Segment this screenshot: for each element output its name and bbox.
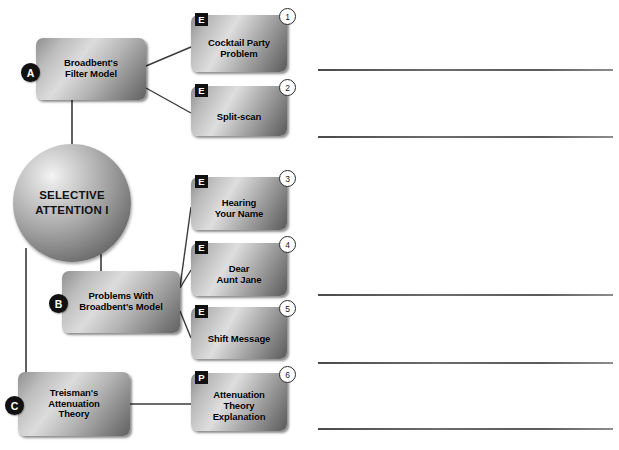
node-c-label-line3: Theory	[58, 408, 89, 419]
node-a-label-line2: Filter Model	[65, 68, 117, 79]
connector-b-to-3	[180, 207, 191, 287]
central-sphere-label: SELECTIVE ATTENTION I	[35, 188, 109, 218]
node-b-label: Problems With Broadbent's Model	[62, 291, 180, 313]
node-1-label-line1: Cocktail Party	[208, 37, 270, 48]
type-badge-e-3: E	[195, 175, 208, 188]
node-3-label: Hearing Your Name	[191, 188, 287, 220]
node-3-label-line2: Your Name	[215, 208, 264, 219]
number-bubble-6: 6	[279, 366, 296, 383]
node-problems-with-broadbents-model[interactable]: Problems With Broadbent's Model	[62, 271, 180, 333]
node-1-label-line2: Problem	[220, 48, 257, 59]
node-c-label: Treisman's Attenuation Theory	[18, 388, 130, 420]
node-treismans-attenuation-theory[interactable]: Treisman's Attenuation Theory	[18, 372, 130, 436]
node-broadbents-filter-model[interactable]: Broadbent's Filter Model	[36, 38, 146, 100]
number-bubble-1: 1	[279, 8, 296, 25]
central-sphere-label-line2: ATTENTION I	[35, 204, 109, 216]
node-c-label-line1: Treisman's	[50, 387, 98, 398]
node-a-label: Broadbent's Filter Model	[36, 58, 146, 80]
node-2-label-line1: Split-scan	[217, 111, 261, 122]
number-bubble-4: 4	[279, 236, 296, 253]
connector-a-to-2	[146, 88, 191, 113]
node-6-label-line3: Explanation	[213, 411, 266, 422]
node-5-label: Shift Message	[191, 322, 287, 345]
node-1-label: Cocktail Party Problem	[191, 28, 287, 60]
central-sphere-label-line1: SELECTIVE	[39, 189, 105, 201]
number-bubble-3: 3	[279, 170, 296, 187]
type-badge-e-2: E	[195, 84, 208, 97]
type-badge-e-4: E	[195, 241, 208, 254]
note-line-1[interactable]	[318, 69, 613, 71]
note-line-2[interactable]	[318, 136, 613, 138]
type-badge-e-1: E	[195, 13, 208, 26]
type-badge-p-6: P	[195, 371, 208, 384]
node-4-label-line1: Dear	[229, 263, 250, 274]
node-3-label-line1: Hearing	[222, 197, 257, 208]
note-line-5[interactable]	[318, 428, 613, 430]
node-5-label-line1: Shift Message	[208, 333, 271, 344]
note-line-3[interactable]	[318, 294, 613, 296]
node-6-label-line2: Theory	[223, 400, 254, 411]
note-line-4[interactable]	[318, 362, 613, 364]
letter-badge-c[interactable]: C	[5, 396, 24, 415]
node-2-label: Split-scan	[191, 100, 287, 123]
number-bubble-5: 5	[279, 300, 296, 317]
node-4-label: Dear Aunt Jane	[191, 254, 287, 286]
connector-b-to-5	[180, 311, 191, 338]
node-a-label-line1: Broadbent's	[64, 57, 118, 68]
connector-b-to-4	[180, 270, 191, 288]
node-6-label: Attenuation Theory Explanation	[191, 381, 287, 422]
node-c-label-line2: Attenuation	[48, 398, 100, 409]
node-6-label-line1: Attenuation	[213, 389, 265, 400]
node-b-label-line1: Problems With	[88, 290, 153, 301]
number-bubble-2: 2	[279, 79, 296, 96]
node-4-label-line2: Aunt Jane	[216, 274, 261, 285]
node-b-label-line2: Broadbent's Model	[79, 301, 162, 312]
concept-map-canvas: SELECTIVE ATTENTION I Broadbent's Filter…	[0, 0, 619, 450]
connector-a-to-1	[146, 47, 191, 66]
type-badge-e-5: E	[195, 305, 208, 318]
central-sphere[interactable]: SELECTIVE ATTENTION I	[13, 144, 131, 262]
letter-badge-a[interactable]: A	[21, 63, 40, 82]
letter-badge-b[interactable]: B	[49, 294, 68, 313]
